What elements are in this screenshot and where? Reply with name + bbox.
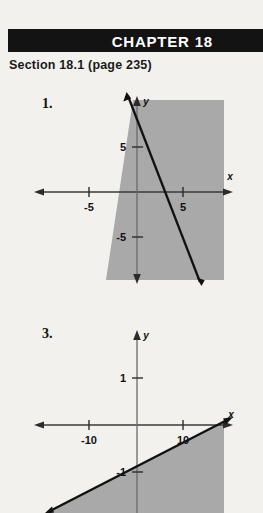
y-axis-label: y [142,330,149,341]
chapter-title: CHAPTER 18 [112,33,213,48]
graph-3: -10 10 1 -1 x y [0,322,263,513]
arrow-up-icon [133,330,141,340]
y-axis-label: y [142,96,149,107]
chapter-banner: CHAPTER 18 [8,29,263,52]
x-tick-label-5: 5 [180,201,186,213]
x-axis-label: x [226,171,233,182]
line-arrow-left-icon [44,507,54,513]
problem-3: 3. [0,322,263,513]
x-tick-label-neg10: -10 [81,434,97,446]
arrow-right-icon [223,188,233,195]
arrow-left-icon [34,188,44,195]
section-heading: Section 18.1 (page 235) [9,58,152,72]
arrow-left-icon [34,421,44,428]
y-tick-label-5: 5 [120,141,126,153]
y-tick-label-neg5: -5 [116,231,126,243]
x-tick-label-neg5: -5 [84,201,94,213]
problem-1: 1. [0,92,263,292]
answer-key-page: CHAPTER 18 Section 18.1 (page 235) 1. [0,0,263,513]
x-axis-3 [34,421,233,428]
graph-1: -5 5 5 -5 x y [0,92,263,292]
y-tick-label-1: 1 [120,372,126,384]
